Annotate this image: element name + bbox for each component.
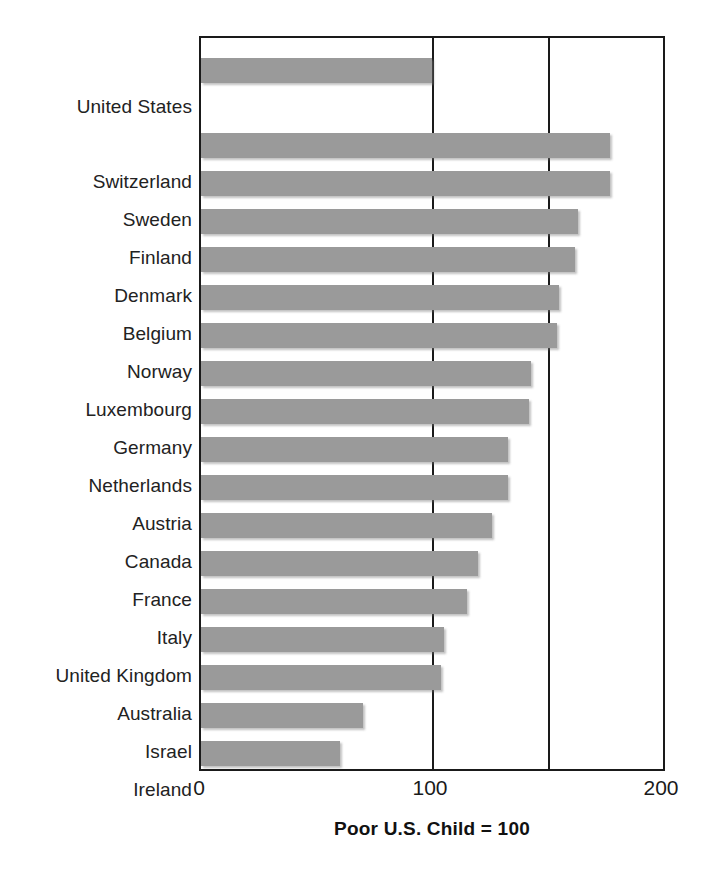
category-label-united-kingdom: United Kingdom (6, 663, 192, 688)
bar-chart: United States Switzerland Sweden Finland… (0, 0, 721, 877)
x-axis-title: Poor U.S. Child = 100 (199, 818, 665, 840)
bar-netherlands (201, 437, 508, 462)
category-label-sweden: Sweden (6, 207, 192, 232)
bar-united-states (201, 58, 432, 83)
category-label-australia: Australia (6, 701, 192, 726)
bar-canada (201, 513, 492, 538)
bar-israel (201, 703, 363, 728)
plot-area (199, 36, 665, 771)
bar-belgium (201, 285, 559, 310)
category-label-luxembourg: Luxembourg (6, 397, 192, 422)
bar-united-kingdom (201, 627, 444, 652)
category-label-canada: Canada (6, 549, 192, 574)
x-tick-100: 100 (412, 775, 447, 801)
bar-finland (201, 209, 578, 234)
category-label-austria: Austria (6, 511, 192, 536)
category-label-israel: Israel (6, 739, 192, 764)
category-label-united-states: United States (6, 94, 192, 119)
category-label-italy: Italy (6, 625, 192, 650)
bar-france (201, 551, 478, 576)
bar-norway (201, 323, 557, 348)
bar-denmark (201, 247, 575, 272)
category-label-norway: Norway (6, 359, 192, 384)
x-tick-0: 0 (193, 775, 205, 801)
bar-sweden (201, 171, 610, 196)
category-label-column: United States Switzerland Sweden Finland… (0, 36, 192, 771)
category-label-netherlands: Netherlands (6, 473, 192, 498)
bar-germany (201, 399, 529, 424)
bar-italy (201, 589, 467, 614)
bar-luxembourg (201, 361, 531, 386)
bar-austria (201, 475, 508, 500)
category-label-france: France (6, 587, 192, 612)
category-label-germany: Germany (6, 435, 192, 460)
bar-australia (201, 665, 441, 690)
bar-ireland (201, 741, 340, 766)
bar-switzerland (201, 133, 610, 158)
category-label-belgium: Belgium (6, 321, 192, 346)
x-tick-200: 200 (643, 775, 678, 801)
category-label-denmark: Denmark (6, 283, 192, 308)
x-axis-tick-labels: 0 100 200 (0, 775, 721, 805)
category-label-switzerland: Switzerland (6, 169, 192, 194)
category-label-finland: Finland (6, 245, 192, 270)
